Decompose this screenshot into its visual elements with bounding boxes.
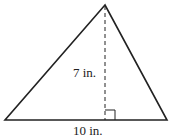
height-label: 7 in. bbox=[73, 66, 96, 79]
base-label: 10 in. bbox=[73, 124, 103, 137]
right-angle-marker bbox=[105, 110, 115, 120]
triangle-outline bbox=[5, 5, 167, 120]
